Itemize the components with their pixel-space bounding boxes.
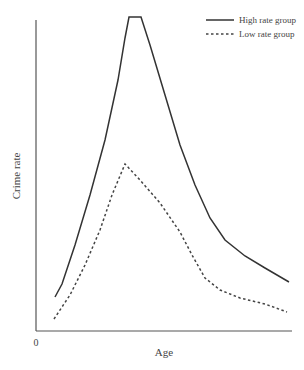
- origin-label: 0: [34, 337, 39, 348]
- chart: High rate group Low rate group 0 Age Cri…: [0, 0, 304, 370]
- y-axis-label: Crime rate: [10, 153, 22, 200]
- legend-label-low: Low rate group: [239, 29, 295, 39]
- legend-label-high: High rate group: [239, 15, 296, 25]
- legend: High rate group Low rate group: [206, 15, 296, 39]
- series-low-rate-group: [54, 164, 287, 319]
- series-high-rate-group: [55, 17, 289, 297]
- x-axis-label: Age: [155, 346, 173, 358]
